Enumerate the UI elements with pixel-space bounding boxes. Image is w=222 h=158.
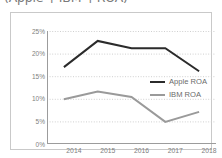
- y-axis-tick-label: 5%: [36, 118, 45, 125]
- y-axis-tick-label: 15%: [32, 73, 45, 80]
- legend-color-swatch: [150, 94, 165, 96]
- y-axis-tick-labels: 0%5%10%15%20%25%: [23, 25, 47, 151]
- y-axis-tick-label: 25%: [32, 28, 45, 35]
- x-axis-tick-label: 2015: [93, 146, 123, 155]
- chart-legend: Apple ROAIBM ROA: [150, 76, 216, 102]
- legend-label: IBM ROA: [169, 90, 201, 99]
- x-axis-tick-label: 2017: [160, 146, 190, 155]
- x-axis-tick-labels: 20142015201620172018: [21, 146, 222, 158]
- legend-item[interactable]: Apple ROA: [150, 76, 216, 87]
- chart-frame: 0%5%10%15%20%25% 20142015201620172018 Ap…: [10, 12, 212, 150]
- x-axis-tick-label: 2018: [194, 146, 222, 155]
- x-axis-tick-label: 2016: [127, 146, 157, 155]
- chart-screenshot: (Apple과 IBM의 ROA) 0%5%10%15%20%25% 20142…: [0, 0, 222, 158]
- y-axis-tick-label: 20%: [32, 50, 45, 57]
- legend-color-swatch: [150, 81, 165, 83]
- series-line-apple-roa: [64, 41, 199, 71]
- chart-title: (Apple과 IBM의 ROA): [4, 0, 128, 5]
- x-axis-tick-label: 2014: [59, 146, 89, 155]
- legend-label: Apple ROA: [169, 77, 207, 86]
- legend-item[interactable]: IBM ROA: [150, 89, 216, 100]
- y-axis-tick-label: 10%: [32, 95, 45, 102]
